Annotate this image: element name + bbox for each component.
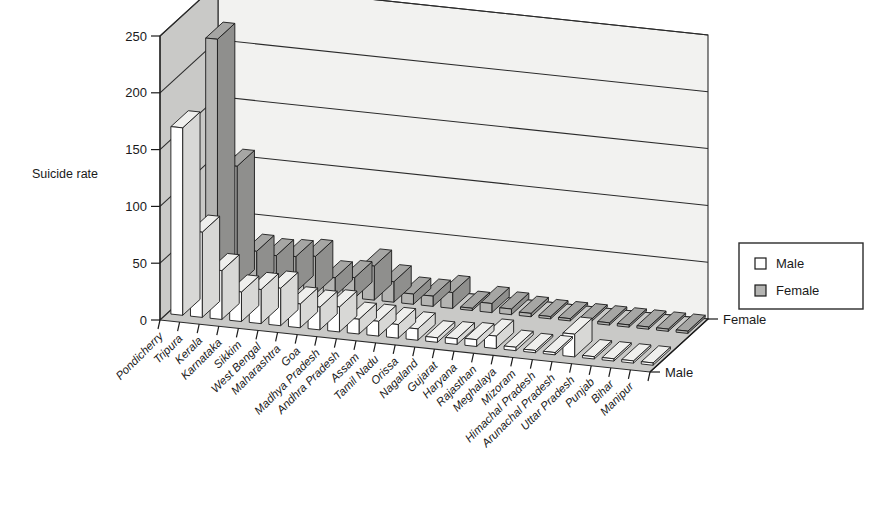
legend-swatch-male xyxy=(755,258,766,269)
chart-container: 250200150100500Suicide rate PondicherryT… xyxy=(0,0,883,514)
chart-legend[interactable]: Male Female xyxy=(739,243,863,309)
y-axis: 250200150100500Suicide rate xyxy=(32,29,160,328)
legend-swatch-female xyxy=(755,285,766,296)
y-tick-label: 50 xyxy=(133,256,147,271)
y-tick-label: 150 xyxy=(125,142,147,157)
depth-axis-label-female: Female xyxy=(723,312,766,327)
y-tick-label: 250 xyxy=(125,29,147,44)
y-tick-label: 0 xyxy=(140,313,147,328)
bar-male-0 xyxy=(171,111,200,316)
legend-box xyxy=(739,243,863,309)
y-tick-label: 200 xyxy=(125,85,147,100)
legend-label-female: Female xyxy=(776,283,819,298)
depth-axis-label-male: Male xyxy=(665,365,693,380)
legend-label-male: Male xyxy=(776,256,804,271)
y-tick-label: 100 xyxy=(125,199,147,214)
y-axis-label: Suicide rate xyxy=(32,167,98,181)
suicide-rate-3d-bar-chart: 250200150100500Suicide rate PondicherryT… xyxy=(0,0,883,514)
